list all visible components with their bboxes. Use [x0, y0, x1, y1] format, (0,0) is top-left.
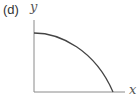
- curve: [34, 33, 113, 92]
- graph: [0, 0, 140, 110]
